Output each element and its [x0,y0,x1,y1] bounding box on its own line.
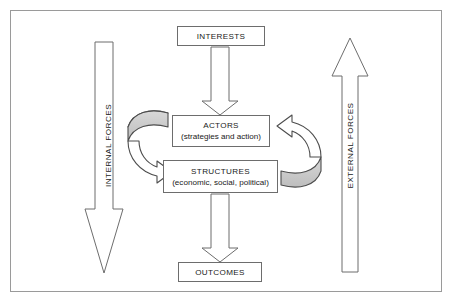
external-forces-label: EXTERNAL FORCES [346,96,355,196]
node-actors-subtitle: (strategies and action) [181,131,261,142]
internal-forces-label: INTERNAL FORCES [104,96,113,196]
node-actors-title: ACTORS [203,120,239,131]
arrow-structures-to-outcomes [202,194,238,262]
node-outcomes[interactable]: OUTCOMES [178,262,262,282]
node-outcomes-title: OUTCOMES [195,267,245,278]
diagram-canvas: INTERESTS ACTORS (strategies and action)… [0,0,452,306]
arrow-interests-to-actors [202,47,238,115]
node-interests-title: INTERESTS [197,31,246,42]
node-structures-subtitle: (economic, social, political) [172,177,269,188]
curved-arrow-structures-to-actors [277,115,321,187]
node-actors[interactable]: ACTORS (strategies and action) [172,115,270,147]
node-structures-title: STRUCTURES [191,166,250,177]
node-interests[interactable]: INTERESTS [177,26,265,46]
node-structures[interactable]: STRUCTURES (economic, social, political) [163,160,278,193]
